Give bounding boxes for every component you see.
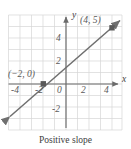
x-axis-label: x xyxy=(122,75,126,85)
x-tick-4: 4 xyxy=(104,86,109,96)
x-tick-zero: 0 xyxy=(57,86,62,96)
y-axis-label: y xyxy=(72,11,76,21)
x-tick-2: 2 xyxy=(81,86,86,96)
positive-slope-figure: y x -4 -2 0 2 4 4 2 -2 (−2, 0) (4, 5) Po… xyxy=(0,0,131,149)
figure-caption: Positive slope xyxy=(0,136,131,146)
point-marker-4-5 xyxy=(109,25,114,30)
point-label-minus2-0: (−2, 0) xyxy=(8,70,35,80)
y-tick-4: 4 xyxy=(56,34,61,44)
y-tick-minus2: -2 xyxy=(52,105,60,115)
x-tick-minus2: -2 xyxy=(35,86,43,96)
y-tick-2: 2 xyxy=(56,57,61,67)
point-label-4-5: (4, 5) xyxy=(80,16,101,26)
x-tick-minus4: -4 xyxy=(11,86,19,96)
